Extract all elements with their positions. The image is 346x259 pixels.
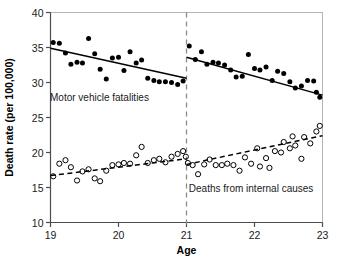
data-point bbox=[121, 68, 126, 73]
data-point bbox=[246, 52, 251, 57]
data-point bbox=[145, 76, 150, 81]
data-point bbox=[257, 67, 262, 72]
internal-causes-label: Deaths from internal causes bbox=[189, 183, 314, 194]
data-point bbox=[234, 74, 239, 79]
data-point bbox=[169, 80, 174, 85]
scatter-chart: 101520253035401920212223AgeDeath rate (p… bbox=[0, 0, 346, 259]
data-point bbox=[216, 60, 221, 65]
data-point bbox=[240, 74, 245, 79]
data-point bbox=[92, 51, 97, 56]
x-tick-label: 22 bbox=[249, 229, 261, 241]
data-point bbox=[139, 58, 144, 63]
y-tick-label: 20 bbox=[32, 147, 44, 159]
x-axis-title: Age bbox=[177, 244, 197, 256]
data-point bbox=[311, 79, 316, 84]
data-point bbox=[264, 65, 269, 70]
y-tick-label: 15 bbox=[32, 182, 44, 194]
x-tick-label: 19 bbox=[45, 229, 57, 241]
data-point bbox=[305, 78, 310, 83]
data-point bbox=[287, 79, 292, 84]
data-point bbox=[199, 49, 204, 54]
y-tick-label: 30 bbox=[32, 77, 44, 89]
data-point bbox=[163, 79, 168, 84]
data-point bbox=[299, 84, 304, 89]
data-point bbox=[128, 49, 133, 54]
data-point bbox=[175, 82, 180, 87]
data-point bbox=[275, 69, 280, 74]
y-tick-label: 10 bbox=[32, 217, 44, 229]
data-point bbox=[151, 78, 156, 83]
x-tick-label: 23 bbox=[317, 229, 329, 241]
x-tick-label: 20 bbox=[113, 229, 125, 241]
data-point bbox=[75, 60, 80, 65]
data-point bbox=[187, 44, 192, 49]
data-point bbox=[98, 67, 103, 72]
y-tick-label: 40 bbox=[32, 7, 44, 19]
data-point bbox=[134, 60, 139, 65]
motor-vehicle-label: Motor vehicle fatalities bbox=[50, 92, 149, 103]
y-axis-title: Death rate (per 100,000) bbox=[3, 58, 15, 176]
y-tick-label: 25 bbox=[32, 112, 44, 124]
data-point bbox=[281, 71, 286, 76]
data-point bbox=[116, 55, 121, 60]
data-point bbox=[157, 79, 162, 84]
data-point bbox=[68, 62, 73, 67]
data-point bbox=[252, 66, 257, 71]
data-point bbox=[57, 41, 62, 46]
data-point bbox=[181, 79, 186, 84]
x-tick-label: 21 bbox=[181, 229, 193, 241]
y-tick-label: 35 bbox=[32, 42, 44, 54]
data-point bbox=[86, 36, 91, 41]
data-point bbox=[104, 77, 109, 82]
data-point bbox=[51, 40, 56, 45]
data-point bbox=[110, 56, 115, 61]
data-point bbox=[80, 60, 85, 65]
